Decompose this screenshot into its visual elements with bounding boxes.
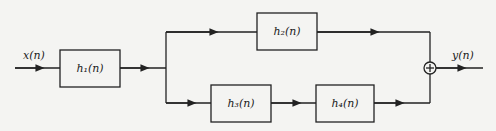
block-h3: h₃(n)	[211, 85, 271, 122]
block-h4: h₄(n)	[316, 85, 374, 122]
block-diagram: x(n) y(n) h₁(n) h₂(n) h₃(n) h₄(n)	[0, 0, 496, 131]
output-label: y(n)	[452, 50, 474, 61]
input-label: x(n)	[23, 50, 45, 61]
block-h1: h₁(n)	[60, 50, 120, 87]
block-h2: h₂(n)	[257, 13, 317, 50]
